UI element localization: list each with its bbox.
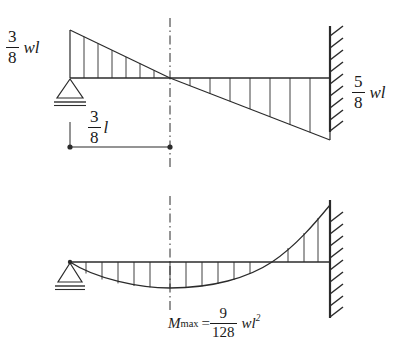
shear-hatch-negative <box>190 78 310 132</box>
pinned-support-lower <box>55 260 85 290</box>
dimension-line-group <box>67 122 172 150</box>
moment-exponent: 2 <box>256 313 261 323</box>
dimension-dot-left <box>67 144 72 149</box>
fraction-nine-over-onetwentyeight: 9 128 <box>210 306 237 341</box>
fixed-support-upper <box>330 26 343 132</box>
moment-hatch-sagging <box>86 262 250 288</box>
shear-slope-left <box>70 30 170 78</box>
fraction-three-eighths-dim: 3 8 <box>88 108 101 147</box>
fraction-five-eighths: 5 8 <box>352 73 365 112</box>
max-moment-label: Mmax= 9 128 wl2 <box>168 306 260 341</box>
fraction-denominator: 8 <box>88 128 101 147</box>
reaction-left-symbol: wl <box>24 39 40 56</box>
reaction-left-label: 3 8 wl <box>6 28 40 67</box>
equals-sign: = <box>202 316 210 331</box>
moment-unit: wl <box>242 316 256 331</box>
moment-curve <box>70 205 330 288</box>
fraction-denominator: 8 <box>6 48 19 67</box>
fraction-three-eighths-left: 3 8 <box>6 28 19 67</box>
fraction-numerator: 3 <box>88 108 101 128</box>
bending-moment-diagram <box>55 200 343 318</box>
fraction-numerator: 9 <box>210 306 237 324</box>
zero-shear-distance-label: 3 8 l <box>88 108 108 147</box>
fraction-numerator: 3 <box>6 28 19 48</box>
moment-subscript: max <box>181 318 199 329</box>
dimension-dot-right <box>167 144 172 149</box>
pinned-support-upper <box>54 79 86 106</box>
moment-symbol: M <box>168 316 181 331</box>
diagram-canvas <box>0 0 408 355</box>
fraction-denominator: 8 <box>352 93 365 112</box>
reaction-right-symbol: wl <box>370 84 386 101</box>
fixed-support-lower <box>330 200 343 318</box>
dimension-symbol: l <box>104 119 109 136</box>
shear-hatch-positive <box>84 37 154 78</box>
fraction-numerator: 5 <box>352 73 365 93</box>
fraction-denominator: 128 <box>210 324 237 341</box>
reaction-right-label: 5 8 wl <box>352 73 386 112</box>
engineering-figure: 3 8 wl 5 8 wl 3 8 l Mmax= 9 128 wl2 <box>0 0 408 355</box>
